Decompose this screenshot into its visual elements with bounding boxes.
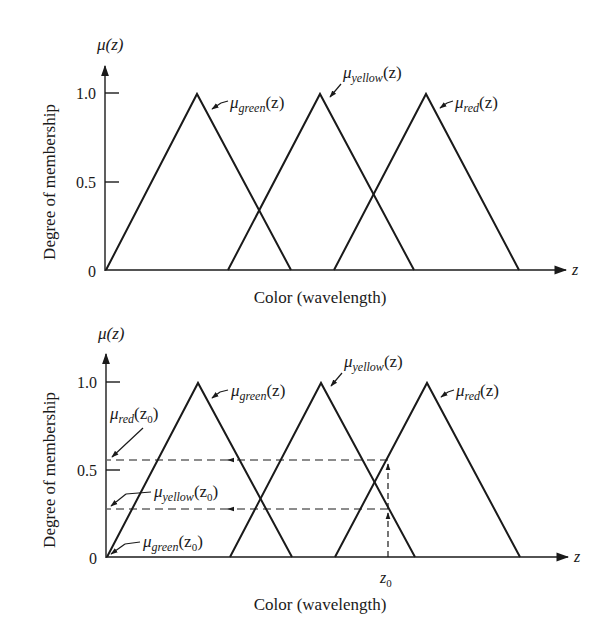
bottom-green-label: μgreen(z)	[212, 381, 285, 403]
top-green-label: μgreen(z)	[212, 93, 284, 115]
svg-text:μred(z0): μred(z0)	[109, 404, 159, 426]
top-tick-label-05: 0.5	[76, 174, 96, 191]
top-z-label: z	[571, 261, 579, 278]
svg-text:μgreen(z0): μgreen(z0)	[142, 532, 203, 554]
svg-text:μyellow(z0): μyellow(z0)	[153, 482, 218, 504]
svg-text:μred(z): μred(z)	[455, 381, 499, 403]
membership-diagram: 1.0 0.5 0 μ(z) Degree of membership Colo…	[0, 0, 610, 641]
z0-label: z0	[379, 569, 392, 589]
svg-text:μgreen(z): μgreen(z)	[230, 381, 285, 403]
top-chart: 1.0 0.5 0 μ(z) Degree of membership Colo…	[40, 35, 579, 307]
top-x-axis-title: Color (wavelength)	[254, 288, 387, 307]
bottom-tick-label-05: 0.5	[77, 462, 97, 479]
bottom-red-membership	[335, 383, 520, 557]
svg-text:μgreen(z): μgreen(z)	[229, 93, 284, 115]
bottom-x-axis-title: Color (wavelength)	[254, 595, 387, 614]
top-yellow-membership	[228, 94, 414, 270]
top-mu-axis-label: μ(z)	[96, 35, 124, 54]
top-tick-label-1: 1.0	[76, 85, 96, 102]
top-red-label: μred(z)	[440, 93, 498, 115]
green-z0-annotation: μgreen(z0)	[111, 532, 203, 554]
bottom-red-label: μred(z)	[441, 381, 499, 403]
red-z0-annotation: μred(z0)	[109, 404, 159, 457]
svg-text:μyellow(z): μyellow(z)	[342, 63, 402, 85]
bottom-chart: 1.0 0.5 0 μ(z) Degree of membership Colo…	[40, 324, 581, 614]
top-tick-label-0: 0	[88, 263, 96, 280]
bottom-y-axis-title: Degree of membership	[40, 392, 59, 548]
top-red-membership	[334, 94, 519, 270]
bottom-z-label: z	[573, 548, 581, 565]
yellow-z0-annotation: μyellow(z0)	[111, 482, 218, 506]
bottom-yellow-label: μyellow(z)	[331, 352, 403, 386]
bottom-yellow-membership	[230, 383, 415, 557]
bottom-tick-label-0: 0	[89, 550, 97, 567]
top-green-membership	[106, 94, 291, 270]
top-y-axis-title: Degree of membership	[40, 104, 59, 260]
bottom-mu-axis-label: μ(z)	[97, 324, 125, 343]
bottom-tick-label-1: 1.0	[77, 374, 97, 391]
svg-text:μyellow(z): μyellow(z)	[343, 352, 403, 374]
top-yellow-label: μyellow(z)	[330, 63, 402, 97]
svg-text:μred(z): μred(z)	[454, 93, 498, 115]
